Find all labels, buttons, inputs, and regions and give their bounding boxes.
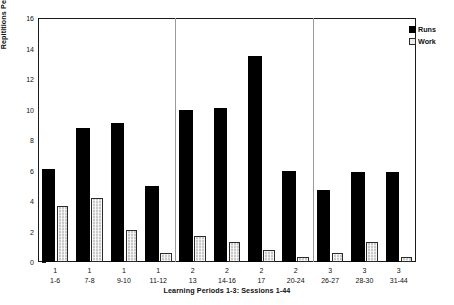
legend-item-runs: Runs xyxy=(409,24,436,35)
x-tick-label: 220-24 xyxy=(279,266,313,285)
legend-swatch-work xyxy=(409,38,416,45)
bar-work xyxy=(160,253,172,262)
y-tick-label: 12 xyxy=(12,76,34,83)
x-tick-label: 11-6 xyxy=(38,266,72,285)
legend-item-work: Work xyxy=(409,36,436,47)
y-tick-label: 0 xyxy=(12,259,34,266)
bar-work xyxy=(263,250,275,262)
y-tick-label: 14 xyxy=(12,45,34,52)
bar-work xyxy=(91,198,103,262)
x-tick-period: 3 xyxy=(313,266,347,276)
y-tick-label: 10 xyxy=(12,106,34,113)
x-tick-sessions: 28-30 xyxy=(347,276,381,286)
y-axis-title: Repititions Per Bar xyxy=(0,0,8,96)
x-tick-label: 17-8 xyxy=(72,266,106,285)
bar-runs xyxy=(111,123,125,262)
x-tick-sessions: 1-6 xyxy=(38,276,72,286)
y-tick-label: 6 xyxy=(12,167,34,174)
x-tick-label: 213 xyxy=(175,266,209,285)
x-tick-period: 1 xyxy=(107,266,141,276)
x-tick-period: 3 xyxy=(347,266,381,276)
x-tick-sessions: 11-12 xyxy=(141,276,175,286)
y-tick-label: 4 xyxy=(12,198,34,205)
chart-legend: Runs Work xyxy=(409,24,436,48)
y-tick-label: 16 xyxy=(12,15,34,22)
bar-work xyxy=(126,230,138,262)
legend-label-work: Work xyxy=(418,37,436,46)
x-tick-sessions: 14-16 xyxy=(210,276,244,286)
bar-runs xyxy=(317,190,331,262)
bar-work xyxy=(366,242,378,262)
y-tick-label: 8 xyxy=(12,137,34,144)
group-separator xyxy=(175,18,176,262)
x-tick-label: 19-10 xyxy=(107,266,141,285)
bar-work xyxy=(332,253,344,262)
bar-runs xyxy=(248,56,262,262)
x-tick-sessions: 7-8 xyxy=(72,276,106,286)
bar-runs xyxy=(351,172,365,262)
bar-runs xyxy=(145,186,159,262)
y-axis-ticks: 0246810121416 xyxy=(8,0,34,305)
bar-runs xyxy=(282,171,296,263)
bar-work xyxy=(229,242,241,262)
x-tick-period: 2 xyxy=(175,266,209,276)
bar-chart: Repititions Per Bar 0246810121416 11-617… xyxy=(0,0,454,305)
legend-swatch-runs xyxy=(409,26,416,33)
x-tick-sessions: 13 xyxy=(175,276,209,286)
x-axis-title: Learning Periods 1-3: Sessions 1-44 xyxy=(0,286,454,295)
bar-runs xyxy=(386,172,400,262)
bar-runs xyxy=(214,108,228,262)
x-tick-period: 1 xyxy=(72,266,106,276)
x-tick-sessions: 17 xyxy=(244,276,278,286)
bar-work xyxy=(297,257,309,262)
bars-layer xyxy=(38,18,416,262)
x-tick-label: 326-27 xyxy=(313,266,347,285)
x-tick-sessions: 20-24 xyxy=(279,276,313,286)
x-tick-period: 1 xyxy=(141,266,175,276)
x-tick-label: 214-16 xyxy=(210,266,244,285)
bar-work xyxy=(194,236,206,262)
bar-work xyxy=(401,257,413,262)
x-tick-period: 2 xyxy=(244,266,278,276)
bar-work xyxy=(57,206,69,262)
bar-runs xyxy=(179,110,193,263)
x-tick-label: 217 xyxy=(244,266,278,285)
x-tick-label: 111-12 xyxy=(141,266,175,285)
group-separator xyxy=(313,18,314,262)
bar-runs xyxy=(42,169,56,262)
x-tick-label: 331-44 xyxy=(382,266,416,285)
x-tick-sessions: 9-10 xyxy=(107,276,141,286)
x-tick-sessions: 26-27 xyxy=(313,276,347,286)
x-tick-period: 2 xyxy=(210,266,244,276)
x-tick-period: 1 xyxy=(38,266,72,276)
x-tick-period: 3 xyxy=(382,266,416,276)
x-tick-sessions: 31-44 xyxy=(382,276,416,286)
x-tick-label: 328-30 xyxy=(347,266,381,285)
bar-runs xyxy=(76,128,90,262)
y-tick-label: 2 xyxy=(12,228,34,235)
legend-label-runs: Runs xyxy=(418,25,436,34)
x-tick-period: 2 xyxy=(279,266,313,276)
